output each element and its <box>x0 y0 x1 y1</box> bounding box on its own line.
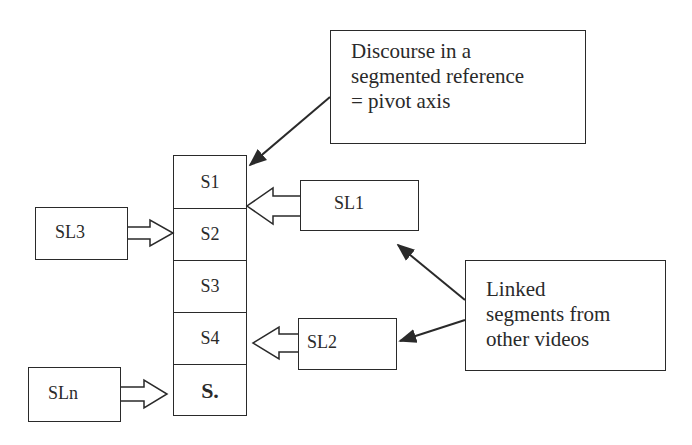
sln-block-arrow <box>121 380 167 408</box>
diagram-canvas: Discourse in a segmented reference = piv… <box>0 0 692 445</box>
linked-note-arrow-lower <box>400 320 465 341</box>
linked-note-arrow-upper <box>398 245 465 300</box>
sl3-block-arrow <box>128 220 173 246</box>
sl1-block-arrow <box>247 188 300 224</box>
pivot-note-arrow <box>250 97 330 165</box>
sl2-block-arrow <box>253 327 298 359</box>
arrows-layer <box>0 0 692 445</box>
